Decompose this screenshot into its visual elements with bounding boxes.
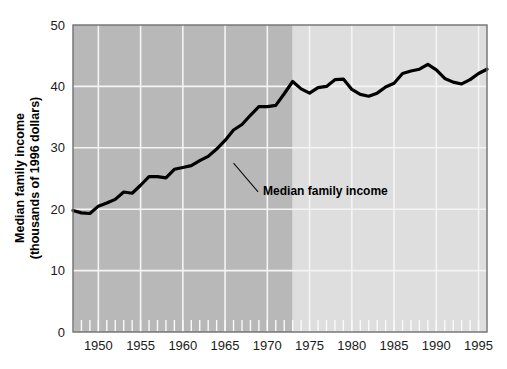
x-tick-labels: 1950195519601965197019751980198519901995 <box>84 338 493 353</box>
y-tick-label: 40 <box>51 79 65 94</box>
y-tick-label: 50 <box>51 18 65 33</box>
chart-figure: Median family income 01020304050 1950195… <box>0 0 507 369</box>
x-tick-label: 1975 <box>295 338 324 353</box>
x-tick-label: 1965 <box>211 338 240 353</box>
x-tick-label: 1970 <box>253 338 282 353</box>
y-axis-title: Median family income (thousands of 1996 … <box>13 97 42 260</box>
x-tick-label: 1960 <box>168 338 197 353</box>
x-tick-label: 1995 <box>464 338 493 353</box>
x-tick-label: 1955 <box>126 338 155 353</box>
shaded-region-post-1973 <box>293 25 487 332</box>
y-axis-title-line2: (thousands of 1996 dollars) <box>28 97 42 260</box>
y-tick-label: 0 <box>58 325 65 340</box>
y-tick-label: 10 <box>51 263 65 278</box>
x-tick-label: 1990 <box>422 338 451 353</box>
x-tick-label: 1980 <box>337 338 366 353</box>
y-tick-labels: 01020304050 <box>51 18 65 340</box>
y-tick-label: 30 <box>51 140 65 155</box>
annotation-label: Median family income <box>263 184 388 198</box>
x-tick-label: 1985 <box>380 338 409 353</box>
y-axis-title-line1: Median family income <box>13 113 27 243</box>
plot-background <box>73 25 487 332</box>
median-family-income-chart: Median family income 01020304050 1950195… <box>0 0 507 369</box>
y-tick-label: 20 <box>51 202 65 217</box>
x-tick-label: 1950 <box>84 338 113 353</box>
